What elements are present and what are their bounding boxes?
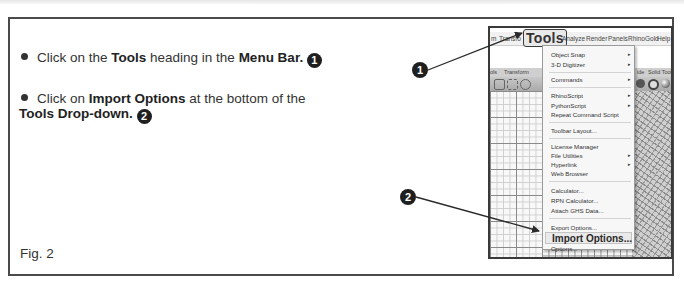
menu-toolbar-layout[interactable]: Toolbar Layout...	[551, 126, 631, 135]
menu-separator	[549, 218, 631, 219]
menu-export-options[interactable]: Export Options...	[551, 223, 631, 232]
tools-dropdown-keyword: Tools Drop-down.	[19, 106, 133, 121]
menu-import-options[interactable]: Import Options...	[545, 232, 632, 244]
callout-badge-2: 2	[400, 189, 416, 205]
menu-separator	[549, 72, 631, 73]
menu-commands[interactable]: Commands▸	[551, 75, 631, 84]
tools-dropdown-menu: Object Snap▸ 3-D Digitizer▸ Commands▸ Rh…	[542, 45, 635, 250]
menu-item-transform[interactable]: Transfo	[499, 35, 521, 42]
tab-tools[interactable]: ols	[490, 69, 497, 75]
zoom-window-icon[interactable]	[494, 79, 505, 90]
menu-file-utilities[interactable]: File Utilities▸	[551, 151, 631, 160]
submenu-arrow-icon: ▸	[628, 50, 631, 59]
menu-object-snap[interactable]: Object Snap▸	[551, 50, 631, 59]
tools-keyword: Tools	[111, 50, 146, 65]
menu-3d-digitizer[interactable]: 3-D Digitizer▸	[551, 60, 631, 69]
menu-rhinoscript[interactable]: RhinoScript▸	[551, 91, 631, 100]
menu-calculator[interactable]: Calculator...	[551, 186, 631, 195]
submenu-arrow-icon: ▸	[628, 60, 631, 69]
instruction-step-1: Click on the Tools heading in the Menu B…	[21, 50, 322, 68]
menu-hyperlink[interactable]: Hyperlink▸	[551, 160, 631, 169]
render-ball-icon[interactable]	[661, 79, 670, 88]
submenu-arrow-icon: ▸	[628, 91, 631, 100]
tab-solid-tools[interactable]: Solid Tools	[648, 69, 673, 75]
instruction-step-2: Click on Import Options at the bottom of…	[21, 91, 321, 106]
menu-attach-ghs-data[interactable]: Attach GHS Data...	[551, 206, 631, 215]
callout-badge-1: 1	[412, 62, 428, 78]
submenu-arrow-icon: ▸	[628, 75, 631, 84]
submenu-arrow-icon: ▸	[628, 160, 631, 169]
render-sphere-icon[interactable]	[648, 79, 659, 90]
submenu-arrow-icon: ▸	[628, 151, 631, 160]
viewport-perspective-grid[interactable]	[630, 91, 673, 259]
viewport-top-grid[interactable]	[490, 91, 542, 259]
bullet-icon	[21, 53, 28, 60]
menu-item-help[interactable]: Help	[657, 35, 670, 42]
submenu-arrow-icon: ▸	[628, 101, 631, 110]
menu-options[interactable]: Options...	[551, 244, 631, 253]
zoom-extents-icon[interactable]	[507, 79, 518, 90]
menu-separator	[549, 181, 631, 182]
instruction-step-2-line-2: Tools Drop-down. 2	[19, 106, 152, 124]
zoom-selected-icon[interactable]	[520, 79, 531, 90]
menu-license-manager[interactable]: License Manager	[551, 142, 631, 151]
figure-caption: Fig. 2	[20, 246, 54, 261]
menu-item-rhinogold[interactable]: RhinoGold	[628, 35, 659, 42]
step-number-badge-2: 2	[137, 109, 152, 124]
menu-bar-keyword: Menu Bar.	[239, 50, 304, 65]
menu-web-browser[interactable]: Web Browser	[551, 169, 631, 178]
menu-item-m[interactable]: m	[491, 35, 496, 42]
menu-item-render[interactable]: Render	[586, 35, 607, 42]
tab-ide[interactable]: ide	[637, 69, 644, 75]
render-material-icon[interactable]	[636, 79, 645, 88]
import-options-keyword: Import Options	[89, 91, 186, 106]
menu-item-panels[interactable]: Panels	[608, 35, 628, 42]
menu-separator	[549, 138, 631, 139]
menu-item-analyze[interactable]: Analyze	[562, 35, 585, 42]
rhino-screenshot: ols Transform ide Solid Tools m Transfo …	[488, 26, 673, 259]
menu-rpn-calculator[interactable]: RPN Calculator...	[551, 196, 631, 205]
menu-separator	[549, 87, 631, 88]
bullet-icon	[21, 94, 28, 101]
menu-bar: m Transfo Tools Analyze Render Panels Rh…	[490, 32, 671, 46]
menu-repeat-command-script[interactable]: Repeat Command Script	[551, 110, 631, 119]
menu-pythonscript[interactable]: PythonScript▸	[551, 101, 631, 110]
menu-separator	[549, 122, 631, 123]
step-number-badge-1: 1	[307, 53, 322, 68]
top-decorative-rule	[0, 0, 684, 4]
tab-transform[interactable]: Transform	[504, 69, 529, 75]
